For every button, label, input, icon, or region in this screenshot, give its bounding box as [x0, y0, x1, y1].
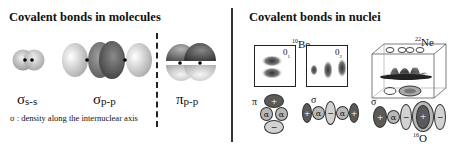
- chain-alpha: α: [336, 106, 349, 120]
- chain-plus: +: [373, 106, 387, 128]
- pi-pp-orbital-figure: [163, 40, 219, 86]
- be10-density-box-1: 01: [254, 45, 296, 87]
- chain-plus: +: [349, 103, 359, 123]
- right-panel-title: Covalent bonds in nuclei: [249, 10, 381, 25]
- cluster-alpha: α: [275, 107, 288, 121]
- sigma-ss-label: σs-s: [17, 92, 37, 107]
- state-0-1-label: 01: [283, 48, 290, 57]
- ne22-3d-density-plot: [370, 42, 448, 100]
- panel-separator: [231, 8, 233, 142]
- o16-label: 16O: [413, 132, 427, 144]
- chain-minus: −: [400, 104, 412, 130]
- chain-plus: +: [416, 105, 430, 129]
- be10-sigma-label: σ: [311, 95, 316, 105]
- state-0-2-label: 02: [335, 48, 342, 57]
- pi-pp-label: πp-p: [176, 92, 198, 107]
- sigma-pp-label: σp-p: [93, 92, 116, 107]
- sigma-pp-orbital-figure: [62, 40, 152, 80]
- sigma-note: σ : density along the internuclear axis: [10, 113, 138, 123]
- be10-pi-label: π: [252, 97, 257, 107]
- be10-density-box-2: 02: [306, 45, 348, 87]
- sigma-ss-orbital-figure: [12, 48, 46, 72]
- chain-alpha: α: [312, 106, 325, 120]
- cluster-alpha: α: [260, 107, 273, 121]
- ne22-sigma-label: σ: [371, 97, 376, 107]
- o16-core: +: [412, 101, 434, 132]
- dashed-divider: [156, 33, 158, 127]
- chain-minus: −: [434, 104, 446, 130]
- chain-alpha: α: [387, 110, 400, 124]
- chain-plus: +: [302, 103, 312, 123]
- left-panel-title: Covalent bonds in molecules: [9, 10, 161, 25]
- cluster-plus: +: [264, 94, 284, 108]
- chain-minus: −: [325, 101, 336, 125]
- cluster-minus: −: [264, 120, 284, 134]
